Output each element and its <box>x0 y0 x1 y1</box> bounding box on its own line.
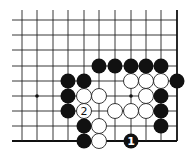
white-stone <box>92 89 107 104</box>
white-stone <box>108 104 123 119</box>
black-stone <box>139 59 154 74</box>
black-stone <box>154 119 169 134</box>
star-point <box>35 94 39 98</box>
black-stone <box>61 74 76 89</box>
black-stone <box>154 104 169 119</box>
white-stone <box>139 104 154 119</box>
black-stone <box>77 119 92 134</box>
white-stone <box>139 74 154 89</box>
white-stone <box>92 134 107 149</box>
black-stone <box>124 59 139 74</box>
black-stone <box>61 89 76 104</box>
white-stone <box>92 119 107 134</box>
move-number-label: 1 <box>127 135 135 148</box>
black-stone <box>154 89 169 104</box>
white-stone <box>124 74 139 89</box>
black-stone <box>77 134 92 149</box>
black-stone <box>92 59 107 74</box>
black-stone <box>108 59 123 74</box>
black-stone <box>61 104 76 119</box>
black-stone <box>154 59 169 74</box>
white-stone <box>124 104 139 119</box>
black-stone-move-1: 1 <box>124 134 139 149</box>
star-point <box>129 94 133 98</box>
black-stone <box>77 74 92 89</box>
move-number-label: 2 <box>81 105 88 118</box>
white-stone <box>139 89 154 104</box>
white-stone <box>77 89 92 104</box>
white-stone-move-2: 2 <box>77 104 92 119</box>
stones-layer: 21 <box>61 59 185 149</box>
white-stone <box>154 74 169 89</box>
black-stone <box>170 74 185 89</box>
go-board-diagram: 21 <box>0 0 194 157</box>
